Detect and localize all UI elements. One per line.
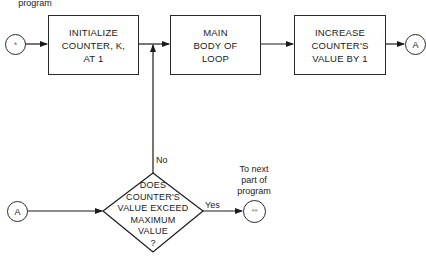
increase-counter-box: INCREASE COUNTER'S VALUE BY 1 [294,15,386,75]
start-connector: * [5,34,26,55]
to-next-part-label: To next part of program [226,164,282,197]
top-program-label: program [14,0,56,9]
end-connector: ** [243,200,266,223]
yes-label: Yes [205,200,220,211]
decision-text: DOES COUNTER'S VALUE EXCEED MAXIMUM VALU… [103,180,203,249]
asterisk-symbol: * [14,40,18,50]
initialize-counter-box: INITIALIZE COUNTER, K, AT 1 [48,15,139,75]
no-label: No [156,155,168,166]
double-asterisk-symbol: ** [251,207,257,216]
main-body-box: MAIN BODY OF LOOP [170,15,261,75]
connector-a-out: A [405,34,426,55]
connector-a-in: A [7,201,28,222]
